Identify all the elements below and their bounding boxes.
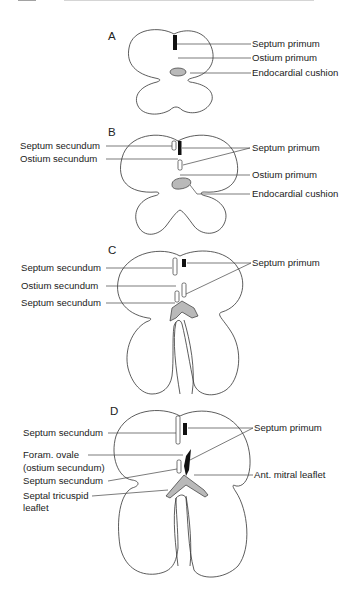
panel-c-septum-secundum-top-shape <box>173 258 177 275</box>
heart-septation-diagram: A Septum primum Ostium primum Endocardia… <box>0 0 353 589</box>
panel-a-label-endocardial-cushion: Endocardial cushion <box>252 67 338 78</box>
panel-c-heart-outline <box>118 251 243 395</box>
panel-d-heart-outline <box>114 411 250 578</box>
panel-d-label-septum-secundum-top: Septum secundum <box>23 427 103 438</box>
panel-b-label-endocardial-cushion: Endocardial cushion <box>252 188 338 199</box>
panel-c: C Septum secundum Ostium secundum Septum… <box>21 244 320 395</box>
panel-c-septum-primum-shape <box>182 259 186 267</box>
panel-d-label-ant-mitral-leaflet: Ant. mitral leaflet <box>254 469 326 480</box>
panel-b-label-ostium-secundum: Ostium secundum <box>20 153 97 164</box>
panel-c-label-ostium-secundum: Ostium secundum <box>21 280 98 291</box>
panel-b-septum-secundum-shape <box>172 141 176 150</box>
panel-c-label-septum-secundum-bottom: Septum secundum <box>21 297 101 308</box>
panel-c-ventricular-septum-left <box>174 322 180 394</box>
panel-b-label-septum-secundum: Septum secundum <box>20 140 100 151</box>
panel-d-label-foramen-ovale-2: (ostium secundum) <box>23 462 105 473</box>
panel-c-label: C <box>108 244 116 256</box>
panel-c-septum-primum-lower-shape <box>182 283 186 297</box>
panel-a-septum-primum-shape <box>173 35 177 50</box>
panel-a: A Septum primum Ostium primum Endocardia… <box>108 30 338 114</box>
panel-b-septum-primum-lower-shape <box>178 160 182 170</box>
panel-d-septum-secundum-top-shape <box>176 416 180 444</box>
panel-b-label-ostium-primum: Ostium primum <box>252 169 317 180</box>
panel-d-label: D <box>110 405 118 417</box>
panel-b: B Septum secundum Ostium secundum Septum… <box>20 126 338 234</box>
panel-a-label-septum-primum: Septum primum <box>252 38 320 49</box>
panel-d-label-septal-tricuspid-1: Septal tricuspid <box>23 490 89 501</box>
panel-a-label-ostium-primum: Ostium primum <box>252 52 317 63</box>
panel-d-septum-secundum-bottom-shape <box>177 460 181 473</box>
panel-d-label-septal-tricuspid-2: leaflet <box>23 502 49 513</box>
panel-d: D Septum secundum Foram. ovale (ostium s… <box>23 405 326 577</box>
panel-b-label-septum-primum: Septum primum <box>252 142 320 153</box>
panel-d-septum-primum-upper-shape <box>183 423 187 435</box>
panel-b-label: B <box>108 126 116 138</box>
panel-c-label-septum-secundum-top: Septum secundum <box>21 262 101 273</box>
panel-c-septum-secundum-bottom-shape <box>175 291 179 302</box>
panel-a-endocardial-cushion-shape <box>170 68 186 76</box>
panel-d-label-foramen-ovale-1: Foram. ovale <box>23 449 79 460</box>
panel-a-label: A <box>108 30 116 42</box>
panel-d-label-septum-secundum-bottom: Septum secundum <box>23 475 103 486</box>
panel-d-label-septum-primum: Septum primum <box>254 422 322 433</box>
panel-b-septum-primum-shape <box>178 141 182 155</box>
panel-c-label-septum-primum: Septum primum <box>252 257 320 268</box>
